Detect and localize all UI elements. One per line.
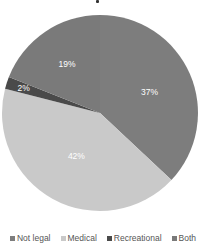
legend-label-not-legal: Not legal [17, 233, 51, 243]
pie-label-medical: 42% [68, 151, 85, 161]
pie-label-both: 19% [58, 59, 75, 69]
legend-swatch-medical [61, 236, 66, 241]
legend-swatch-both [172, 236, 177, 241]
legend-item-not-legal: Not legal [10, 232, 51, 244]
legend-item-recreational: Recreational [107, 232, 162, 244]
legend-item-both: Both [172, 232, 197, 244]
legend-swatch-not-legal [10, 236, 15, 241]
pie-chart: 37%42%2%19% [0, 0, 206, 225]
legend-label-both: Both [179, 233, 197, 243]
pie-svg: 37%42%2%19% [0, 0, 206, 225]
pie-label-recreational: 2% [17, 83, 30, 93]
legend: Not legal Medical Recreational Both [0, 232, 206, 244]
pie-slices [2, 15, 198, 211]
legend-label-recreational: Recreational [114, 233, 162, 243]
legend-label-medical: Medical [68, 233, 97, 243]
legend-swatch-recreational [107, 236, 112, 241]
legend-item-medical: Medical [61, 232, 97, 244]
pie-label-not-legal: 37% [141, 87, 158, 97]
